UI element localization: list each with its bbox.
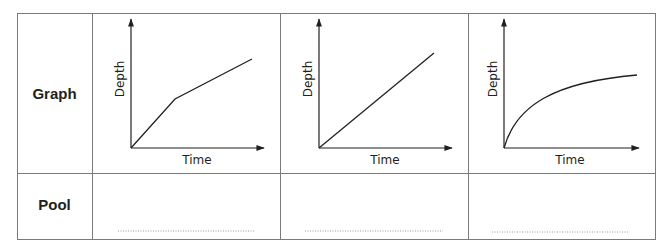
graph-1-line — [131, 59, 252, 148]
graph-3-xlabel: Time — [554, 153, 584, 167]
graph-1-xlabel: Time — [181, 153, 211, 167]
graph-3: Depth Time — [486, 19, 639, 167]
graph-3-curve — [504, 75, 637, 148]
graph-2-xlabel: Time — [369, 153, 399, 167]
graphs-canvas: Depth Time Depth Time Depth Time — [0, 0, 663, 250]
graph-2-line — [319, 53, 434, 148]
graph-1-ylabel: Depth — [113, 61, 127, 98]
graph-3-ylabel: Depth — [486, 61, 500, 98]
graph-1: Depth Time — [113, 19, 264, 167]
graph-2-ylabel: Depth — [301, 61, 315, 98]
graph-2: Depth Time — [301, 19, 452, 167]
pool-graph-matching-table: Graph Pool Depth Time Depth Time — [0, 0, 663, 250]
